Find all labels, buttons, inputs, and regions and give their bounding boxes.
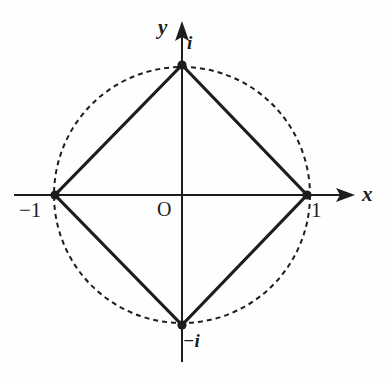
vertex-dot-i bbox=[177, 60, 186, 69]
y-axis-label: y bbox=[158, 17, 167, 38]
complex-plane-figure: y x i 1 −i −1 O bbox=[0, 0, 387, 383]
point-label-one: 1 bbox=[311, 200, 322, 221]
origin-label: O bbox=[157, 199, 171, 219]
point-label-neg-i: −i bbox=[183, 331, 200, 350]
x-axis-label: x bbox=[362, 184, 373, 205]
point-label-neg-one: −1 bbox=[19, 200, 41, 221]
vertex-dot-neg-one bbox=[50, 190, 59, 199]
figure-canvas bbox=[0, 0, 387, 383]
point-label-i: i bbox=[187, 33, 192, 52]
vertex-dot-neg-i bbox=[177, 320, 186, 329]
